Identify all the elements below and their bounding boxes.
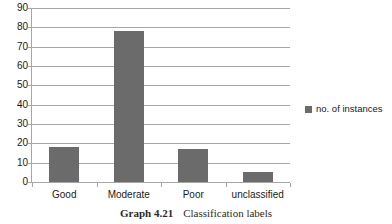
gridline bbox=[32, 124, 290, 125]
x-axis-tick-mark bbox=[226, 183, 227, 187]
x-axis-category-label: Poor bbox=[161, 189, 226, 200]
plot-area bbox=[32, 8, 290, 182]
y-axis-tick-label: 60 bbox=[4, 61, 28, 71]
bar-chart: 9080706050403020100 GoodModeratePooruncl… bbox=[0, 0, 392, 200]
x-axis-category-label: unclassified bbox=[226, 189, 291, 200]
x-axis-tick-mark bbox=[97, 183, 98, 187]
gridline bbox=[32, 27, 290, 28]
y-axis-tick-mark bbox=[28, 47, 32, 48]
y-axis-tick-label: 50 bbox=[4, 80, 28, 90]
chart-figure: 9080706050403020100 GoodModeratePooruncl… bbox=[0, 0, 392, 224]
x-axis-tick-mark bbox=[32, 183, 33, 187]
caption-text: Classification labels bbox=[183, 207, 272, 219]
bar[interactable] bbox=[49, 147, 79, 182]
y-axis-tick-label: 70 bbox=[4, 42, 28, 52]
y-axis-tick-mark bbox=[28, 105, 32, 106]
y-axis-tick-label: 40 bbox=[4, 100, 28, 110]
y-axis-tick-mark bbox=[28, 8, 32, 9]
gridline bbox=[32, 66, 290, 67]
y-axis-tick-mark bbox=[28, 143, 32, 144]
caption-number: Graph 4.21 bbox=[120, 207, 173, 219]
y-axis-tick-mark bbox=[28, 163, 32, 164]
bar[interactable] bbox=[114, 31, 144, 182]
gridline bbox=[32, 8, 290, 9]
gridline bbox=[32, 47, 290, 48]
gridline bbox=[32, 143, 290, 144]
gridline bbox=[32, 105, 290, 106]
legend-label: no. of instances bbox=[316, 104, 383, 114]
x-axis-tick-mark bbox=[161, 183, 162, 187]
x-axis-tick-mark bbox=[290, 183, 291, 187]
gridline bbox=[32, 85, 290, 86]
y-axis-tick-label: 0 bbox=[4, 177, 28, 187]
x-axis-category-label: Good bbox=[32, 189, 97, 200]
y-axis-tick-label: 30 bbox=[4, 119, 28, 129]
x-axis-category-label: Moderate bbox=[97, 189, 162, 200]
legend-swatch-icon bbox=[305, 106, 312, 113]
y-axis-tick-label: 10 bbox=[4, 158, 28, 168]
y-axis-tick-mark bbox=[28, 27, 32, 28]
bar[interactable] bbox=[178, 149, 208, 182]
y-axis-tick-mark bbox=[28, 124, 32, 125]
figure-caption: Graph 4.21Classification labels bbox=[0, 207, 392, 219]
chart-legend: no. of instances bbox=[305, 104, 383, 114]
y-axis-tick-label: 80 bbox=[4, 22, 28, 32]
y-axis-tick-label: 90 bbox=[4, 3, 28, 13]
bar[interactable] bbox=[243, 172, 273, 182]
y-axis-tick-mark bbox=[28, 66, 32, 67]
y-axis-tick-label: 20 bbox=[4, 138, 28, 148]
y-axis-tick-mark bbox=[28, 182, 32, 183]
y-axis-labels: 9080706050403020100 bbox=[0, 0, 28, 200]
y-axis-tick-mark bbox=[28, 85, 32, 86]
